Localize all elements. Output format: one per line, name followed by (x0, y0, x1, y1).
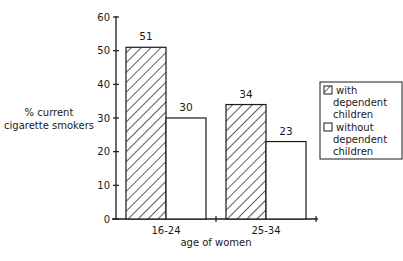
legend-swatch-hatched (324, 86, 332, 94)
y-axis-title: % currentcigarette smokers (4, 107, 94, 131)
y-tick-label: 50 (97, 45, 110, 56)
y-tick-label: 40 (97, 79, 110, 90)
y-tick-label: 30 (97, 113, 110, 124)
bars: 51303423 (126, 30, 306, 219)
data-label: 51 (139, 30, 152, 42)
bar-with-children (126, 47, 166, 219)
y-tick-label: 20 (97, 146, 110, 157)
chart-canvas: 0102030405060 16-2425-34 51303423 % curr… (0, 0, 403, 261)
bar-without-children (166, 118, 206, 219)
data-label: 30 (179, 101, 192, 113)
legend: withdependentchildrenwithoutdependentchi… (320, 82, 402, 159)
y-tick-label: 60 (97, 12, 110, 23)
x-axis-title: age of women (180, 237, 251, 248)
bar-without-children (266, 142, 306, 219)
legend-label: dependent (333, 134, 387, 145)
data-label: 34 (239, 88, 253, 100)
legend-label: children (333, 146, 373, 157)
legend-swatch-plain (324, 123, 332, 131)
x-tick-label: 25-34 (251, 225, 280, 236)
data-label: 23 (279, 125, 292, 137)
y-tick-label: 10 (97, 180, 110, 191)
y-axis: 0102030405060 (97, 12, 119, 225)
legend-label: dependent (333, 97, 387, 108)
legend-label: children (333, 109, 373, 120)
x-tick-label: 16-24 (151, 225, 180, 236)
y-tick-label: 0 (104, 214, 110, 225)
legend-label: without (336, 122, 374, 133)
bar-with-children (226, 105, 266, 219)
legend-label: with (336, 85, 357, 96)
